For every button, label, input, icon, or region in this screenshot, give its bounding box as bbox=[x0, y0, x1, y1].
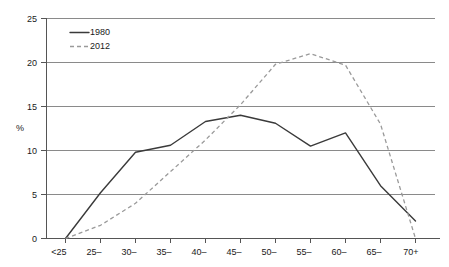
line-chart: 25 20 15 10 5 0 % <25 25– 30– bbox=[0, 0, 449, 267]
y-tick-labels: 25 20 15 10 5 0 bbox=[27, 14, 37, 244]
y-tick-label-10: 10 bbox=[27, 146, 37, 156]
x-tick-label-50: 50– bbox=[261, 247, 276, 257]
data-series bbox=[66, 54, 416, 239]
y-tick-label-25: 25 bbox=[27, 14, 37, 24]
series-line-2012 bbox=[66, 54, 416, 239]
y-tick-label-20: 20 bbox=[27, 58, 37, 68]
x-tick-label-25: 25– bbox=[86, 247, 101, 257]
x-tick-label-45: 45– bbox=[226, 247, 241, 257]
x-tick-label-70plus: 70+ bbox=[403, 247, 418, 257]
x-tick-label-60: 60– bbox=[331, 247, 346, 257]
legend-label-2012: 2012 bbox=[90, 41, 110, 51]
x-tick-label-55: 55– bbox=[296, 247, 311, 257]
y-tick-label-5: 5 bbox=[32, 190, 37, 200]
y-axis-title: % bbox=[16, 123, 24, 133]
y-tick-label-0: 0 bbox=[32, 234, 37, 244]
x-tick-label-65: 65– bbox=[366, 247, 381, 257]
legend-label-1980: 1980 bbox=[90, 27, 110, 37]
x-tick-label-35: 35– bbox=[156, 247, 171, 257]
chart-container: 25 20 15 10 5 0 % <25 25– 30– bbox=[0, 0, 449, 267]
x-tick-label-30: 30– bbox=[121, 247, 136, 257]
chart-legend: 1980 2012 bbox=[70, 27, 110, 51]
series-line-1980 bbox=[66, 115, 416, 238]
x-tick-labels: <25 25– 30– 35– 40– 45– 50– 55– 60– 65– … bbox=[51, 247, 418, 257]
x-tick-label-lt25: <25 bbox=[51, 247, 66, 257]
x-tick-label-40: 40– bbox=[191, 247, 206, 257]
y-tick-marks bbox=[41, 19, 46, 239]
y-tick-label-15: 15 bbox=[27, 102, 37, 112]
